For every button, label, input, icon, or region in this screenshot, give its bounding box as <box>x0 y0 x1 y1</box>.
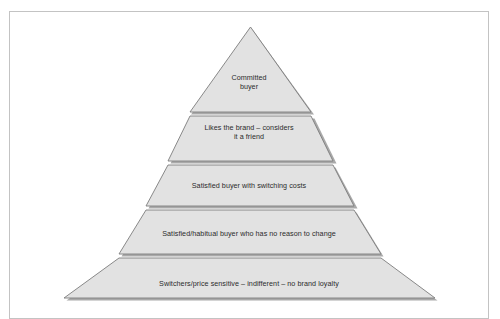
caption-fragment-strip <box>0 0 500 9</box>
loyalty-pyramid: Committed buyer Likes the brand – consid… <box>9 11 489 314</box>
pyramid-level-5[interactable] <box>9 11 489 314</box>
pyramid-level-5-shape <box>64 258 435 298</box>
